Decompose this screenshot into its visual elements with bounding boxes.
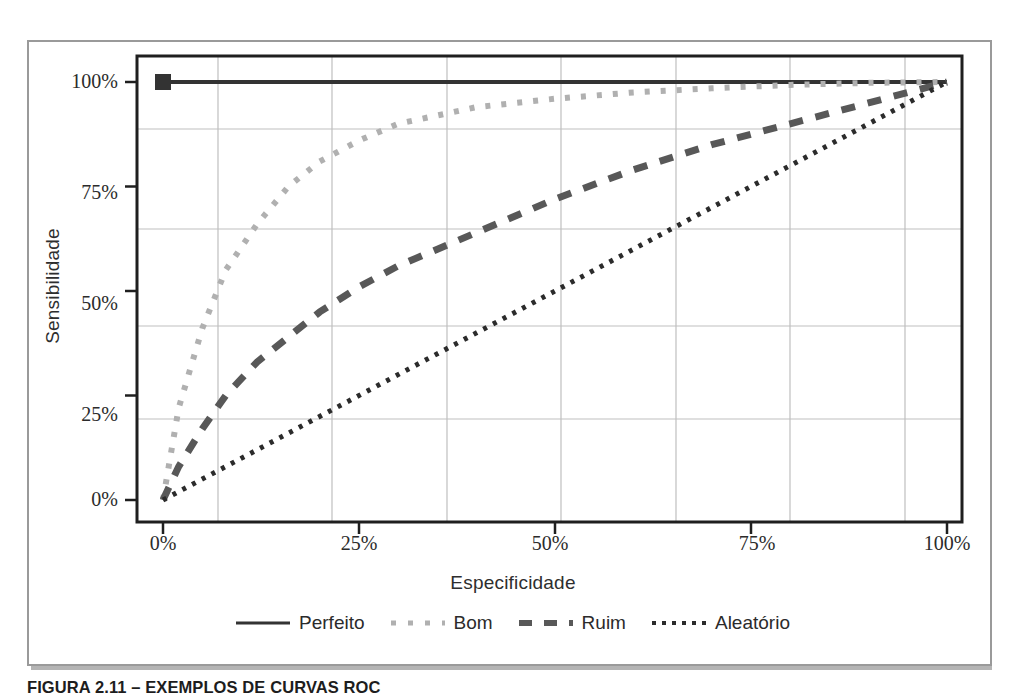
x-tick-label-50: 50% bbox=[505, 532, 595, 555]
y-tick-label-0: 0% bbox=[28, 488, 118, 511]
figure-page: 100% 75% 50% 25% 0% 0% 25% 50% 75% 100% … bbox=[0, 0, 1026, 696]
y-tick-label-100: 100% bbox=[28, 70, 118, 93]
legend-label-aleatorio: Aleatório bbox=[715, 612, 790, 634]
x-tick-label-75: 75% bbox=[712, 532, 802, 555]
legend-item-bom: Bom bbox=[391, 612, 493, 634]
x-tick-label-100: 100% bbox=[902, 532, 992, 555]
legend-swatch-bom bbox=[391, 616, 445, 630]
legend-label-perfeito: Perfeito bbox=[299, 612, 364, 634]
legend-item-ruim: Ruim bbox=[519, 612, 626, 634]
y-tick-label-25: 25% bbox=[28, 403, 118, 426]
x-tick-label-25: 25% bbox=[314, 532, 404, 555]
x-axis-title: Especificidade bbox=[0, 572, 1026, 594]
chart-legend: Perfeito Bom Ruim Aleatório bbox=[0, 612, 1026, 634]
y-axis-title: Sensibilidade bbox=[42, 186, 64, 386]
x-tick-label-0: 0% bbox=[118, 532, 208, 555]
legend-label-bom: Bom bbox=[454, 612, 493, 634]
legend-label-ruim: Ruim bbox=[582, 612, 626, 634]
legend-swatch-aleatorio bbox=[652, 616, 706, 630]
legend-swatch-perfeito bbox=[236, 616, 290, 630]
legend-item-perfeito: Perfeito bbox=[236, 612, 364, 634]
legend-swatch-ruim bbox=[519, 616, 573, 630]
legend-item-aleatorio: Aleatório bbox=[652, 612, 790, 634]
figure-caption: FIGURA 2.11 – EXEMPLOS DE CURVAS ROC bbox=[27, 678, 381, 696]
